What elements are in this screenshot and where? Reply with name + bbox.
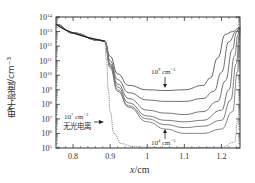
annotations: 109 cm−3104 cm−3107 cm−3无光电离 [63,67,176,147]
annotation-no-photoionization: 无光电离 [63,121,92,131]
x-tick-label: 1 [145,152,149,161]
series-line [56,24,240,122]
x-tick-label: 1.2 [216,152,226,161]
y-tick-label: 1011 [39,57,52,66]
y-tick-label: 1012 [39,42,53,51]
annotation-1e7: 107 cm−3 [64,112,89,121]
x-axis-label: x/cm [130,164,149,175]
y-tick-label: 107 [42,115,53,124]
y-tick-label: 1010 [39,71,53,80]
y-tick-label: 1014 [39,13,53,22]
x-tick-label: 0.8 [68,152,78,161]
y-tick-label: 105 [42,144,53,153]
series-line [56,24,240,114]
y-axis-label: 电子密度/cm⁻³ [4,40,18,135]
x-tick-label: 0.9 [105,152,115,161]
y-tick-label: 109 [42,86,53,95]
electron-density-chart: 10510610710810910101011101210131014 0.80… [0,0,255,183]
x-axis-ticks: 0.80.911.11.2 [58,17,236,161]
annotation-1e9: 109 cm−3 [151,67,176,76]
common-curve-segment [56,24,105,41]
x-axis-unit: /cm [134,164,149,175]
y-tick-label: 1013 [39,28,53,37]
x-tick-label: 1.1 [179,152,189,161]
series-line [56,24,240,90]
y-tick-label: 108 [42,100,53,109]
series-line [56,24,240,133]
annotation-1e4: 104 cm−3 [151,138,176,147]
y-tick-label: 106 [42,129,53,138]
